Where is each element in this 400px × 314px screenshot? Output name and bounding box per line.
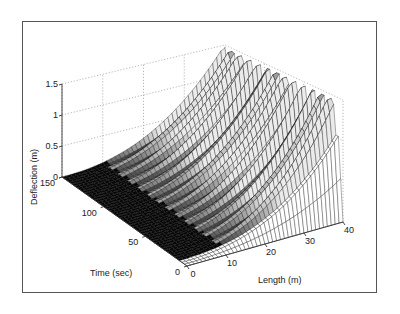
time-tick-label: 50 <box>128 237 138 247</box>
mesh-surface <box>62 48 343 266</box>
z-tick-label: 1 <box>53 110 58 120</box>
z-tick-label: 0.5 <box>45 141 58 151</box>
surface-plot: 00.511.5050100150010203040 Deflection (m… <box>0 0 400 314</box>
time-tick <box>101 207 104 208</box>
length-axis-label: Length (m) <box>258 275 302 285</box>
time-tick <box>142 236 145 237</box>
time-tick <box>59 177 62 178</box>
length-tick-label: 0 <box>190 269 195 279</box>
time-tick-label: 100 <box>82 208 97 218</box>
length-tick-label: 20 <box>266 247 276 257</box>
z-tick-label: 1.5 <box>45 79 58 89</box>
time-axis-label: Time (sec) <box>90 268 132 278</box>
time-tick-label: 150 <box>40 178 55 188</box>
z-axis-label: Deflection (m) <box>29 149 39 205</box>
length-tick <box>187 266 189 269</box>
length-tick-label: 10 <box>227 258 237 268</box>
time-tick <box>184 266 187 267</box>
length-tick-label: 40 <box>344 225 354 235</box>
length-tick-label: 30 <box>305 236 315 246</box>
time-tick-label: 0 <box>175 267 180 277</box>
